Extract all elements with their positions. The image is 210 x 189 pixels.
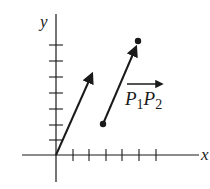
label-sub-1: 1: [137, 97, 144, 112]
point-p2: [135, 38, 141, 44]
point-p1: [100, 121, 106, 127]
position-vector-arrow: [56, 74, 92, 155]
x-axis-label: x: [200, 145, 209, 164]
label-sub-2: 2: [155, 97, 162, 112]
displacement-vector: [100, 38, 141, 127]
svg-text:P1P2: P1P2: [124, 88, 162, 112]
vector-diagram: x y P1P2: [0, 0, 210, 189]
p1p2-label: P1P2: [124, 84, 162, 112]
label-p: P: [124, 88, 137, 109]
p1p2-arrow: [103, 47, 136, 124]
label-p: P: [143, 88, 156, 109]
y-axis-label: y: [38, 12, 48, 31]
